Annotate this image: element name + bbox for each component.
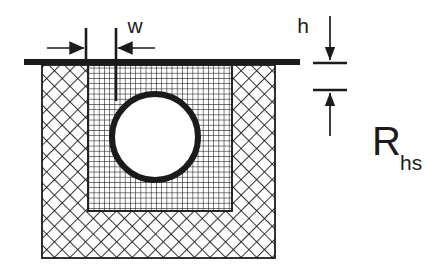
- resistance-label: R: [372, 119, 401, 163]
- h-label: h: [297, 14, 309, 37]
- hole-circle: [112, 94, 198, 180]
- resistance-subscript-label: hs: [400, 151, 422, 174]
- diagram-canvas: w h R hs: [0, 0, 444, 277]
- w-label: w: [126, 14, 143, 37]
- cross-section-diagram: w h R hs: [0, 0, 444, 277]
- top-plate: [24, 59, 300, 65]
